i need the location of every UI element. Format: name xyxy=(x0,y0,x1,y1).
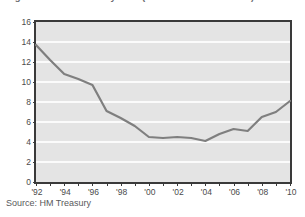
y-axis-tick-label: 10 xyxy=(22,78,31,87)
x-axis-tick-label: '98 xyxy=(116,188,127,197)
chart-card: 0246810121416 '92'94'96'98'00'02'04'06'0… xyxy=(6,7,298,191)
plot-area: 0246810121416 '92'94'96'98'00'02'04'06'0… xyxy=(34,20,292,184)
x-axis-tick-mark xyxy=(219,182,220,186)
x-axis-tick-mark xyxy=(64,182,65,186)
y-axis-tick-label: 12 xyxy=(22,58,31,67)
data-series-line xyxy=(36,22,290,182)
x-axis-tick-mark xyxy=(135,182,136,186)
figure-title: Figure 3.3: HM Treasury debt (£bn – cons… xyxy=(6,0,302,5)
x-axis-tick-mark xyxy=(50,182,51,186)
x-axis-tick-mark xyxy=(191,182,192,186)
y-axis-tick-label: 0 xyxy=(26,178,31,187)
x-axis-tick-mark xyxy=(290,182,291,186)
x-axis-tick-label: '96 xyxy=(88,188,99,197)
x-axis-tick-label: '00 xyxy=(144,188,155,197)
x-axis-tick-mark xyxy=(36,182,37,186)
x-axis-tick-mark xyxy=(149,182,150,186)
x-axis-tick-label: '92 xyxy=(31,188,42,197)
x-axis-tick-mark xyxy=(262,182,263,186)
x-axis-tick-mark xyxy=(234,182,235,186)
x-axis-tick-mark xyxy=(248,182,249,186)
x-axis-tick-mark xyxy=(121,182,122,186)
x-axis-tick-mark xyxy=(92,182,93,186)
x-axis-tick-label: '06 xyxy=(229,188,240,197)
x-axis-tick-mark xyxy=(205,182,206,186)
x-axis-tick-label: '08 xyxy=(257,188,268,197)
x-axis-tick-mark xyxy=(177,182,178,186)
y-axis-tick-label: 6 xyxy=(26,118,31,127)
x-axis-tick-mark xyxy=(276,182,277,186)
y-axis-tick-label: 16 xyxy=(22,18,31,27)
y-axis-tick-label: 8 xyxy=(26,98,31,107)
x-axis-tick-label: '10 xyxy=(285,188,296,197)
x-axis-tick-mark xyxy=(163,182,164,186)
x-axis-tick-mark xyxy=(78,182,79,186)
y-axis-tick-label: 14 xyxy=(22,38,31,47)
y-axis-tick-label: 4 xyxy=(26,138,31,147)
x-axis-tick-label: '04 xyxy=(201,188,212,197)
x-axis-tick-label: '02 xyxy=(173,188,184,197)
source-note: Source: HM Treasury xyxy=(6,198,91,208)
y-axis-tick-label: 2 xyxy=(26,158,31,167)
x-axis-tick-mark xyxy=(107,182,108,186)
x-axis-tick-label: '94 xyxy=(60,188,71,197)
